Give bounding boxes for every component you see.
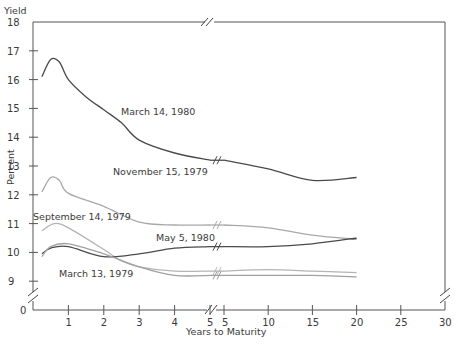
y-axis-heading: Yield xyxy=(3,5,27,16)
series-march-14-1980-line xyxy=(224,160,357,181)
x-tick-label: 25 xyxy=(395,317,408,328)
series-label: May 5, 1980 xyxy=(156,232,215,243)
y-tick-label: 11 xyxy=(7,219,20,230)
y-tick-label: 18 xyxy=(7,17,20,28)
series-label: March 13, 1979 xyxy=(59,268,133,279)
y-tick-label: 10 xyxy=(7,247,20,258)
series-march-13-1979-line xyxy=(224,275,357,277)
series-labels: March 14, 1980November 15, 1979September… xyxy=(33,106,215,279)
series-label: March 14, 1980 xyxy=(121,106,195,117)
x-tick-label: 1 xyxy=(65,317,71,328)
curve-break-marks xyxy=(213,156,221,279)
y-tick-label: 17 xyxy=(7,46,20,57)
yield-curve-chart: 18171615141312111090 1234551015202530 Ma… xyxy=(0,0,458,344)
series-may-5-1980-line xyxy=(224,238,357,247)
plot-frame xyxy=(33,22,445,310)
x-tick-label: 15 xyxy=(306,317,319,328)
y-tick-label: 15 xyxy=(7,103,20,114)
y-axis-label: Percent xyxy=(5,149,16,185)
y-tick-label: 16 xyxy=(7,75,20,86)
x-tick-label: 2 xyxy=(101,317,107,328)
x-tick-label: 4 xyxy=(172,317,178,328)
x-tick-label: 30 xyxy=(439,317,452,328)
x-axis-ticks: 1234551015202530 xyxy=(65,305,451,328)
series-november-15-1979-line xyxy=(224,225,357,239)
x-tick-label: 3 xyxy=(136,317,142,328)
y-tick-label: 9 xyxy=(8,276,14,287)
y-tick-label: 0 xyxy=(20,305,26,316)
series-may-5-1980-line xyxy=(42,246,210,257)
x-tick-label: 20 xyxy=(351,317,364,328)
series-september-14-1979-line xyxy=(224,270,357,273)
y-tick-label: 14 xyxy=(7,132,20,143)
x-axis-label: Years to Maturity xyxy=(185,326,267,337)
series-label: November 15, 1979 xyxy=(113,166,208,177)
y-tick-label: 12 xyxy=(7,190,20,201)
series-label: September 14, 1979 xyxy=(33,211,131,222)
